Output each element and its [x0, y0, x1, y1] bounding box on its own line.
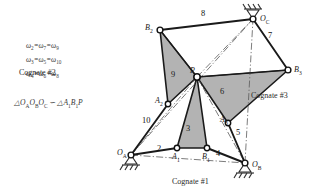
joint-label-B2-sub: 2 — [150, 28, 153, 34]
link-number-8: 8 — [201, 9, 205, 18]
eq1-s1: 2 — [31, 45, 34, 51]
joint-label-OA-sub: A — [123, 153, 127, 159]
eq1-s2: 7 — [44, 45, 47, 51]
cognate-1-label: Cognate #1 — [172, 177, 209, 186]
link-2-bar — [131, 148, 177, 155]
link-number-2: 2 — [157, 144, 161, 153]
eq2-s1: 3 — [31, 60, 34, 66]
similar-symbol: ∽ — [49, 98, 55, 107]
joint-label-P: P — [190, 66, 195, 75]
joint-label-A1-sub: 1 — [177, 157, 180, 163]
link-number-6: 6 — [220, 87, 224, 96]
sim-O3-sub: C — [44, 103, 48, 109]
joint-pin-A1 — [174, 145, 179, 150]
joint-label-A2: A2 — [155, 96, 163, 107]
joint-label-B2: B2 — [145, 23, 153, 34]
link-number-10: 10 — [142, 116, 150, 125]
joint-label-P-base: P — [190, 66, 195, 75]
link-number-4: 4 — [216, 149, 220, 158]
eq2-s2: 5 — [44, 60, 47, 66]
joint-label-OA: OA — [117, 148, 127, 159]
link-number-5: 5 — [236, 128, 240, 137]
joint-label-A1: A1 — [172, 152, 180, 163]
eq2-s3: 10 — [56, 60, 61, 66]
link-7-bar — [253, 19, 288, 70]
joint-pin-B3 — [285, 67, 291, 73]
link-10-bar — [131, 104, 168, 155]
link-8-bar — [160, 19, 253, 30]
triangle-similarity-statement: △OAOBOC ∽ △A1B1P — [14, 98, 83, 109]
joint-label-A2-sub: 2 — [160, 101, 163, 107]
eq3-s3: 8 — [56, 74, 59, 80]
centerline-P-OC — [197, 19, 253, 77]
equation-row-2: ω3=ω5=ω10 — [26, 57, 106, 66]
link-number-3: 3 — [186, 124, 190, 133]
joint-pin-B1 — [204, 145, 209, 150]
joint-label-B3-sub: 3 — [299, 70, 302, 76]
joint-label-A3: A3 — [220, 115, 228, 126]
joint-label-OC-sub: C — [266, 19, 270, 25]
joint-label-B1-sub: 1 — [207, 157, 210, 163]
sim-P: P — [78, 98, 83, 107]
joint-label-B3: B3 — [294, 65, 302, 76]
joint-label-A3-sub: 3 — [225, 120, 228, 126]
joint-pin-OC — [250, 16, 256, 22]
link-number-7: 7 — [268, 31, 272, 40]
joint-label-OC: OC — [260, 14, 270, 25]
equation-row-1: ω2=ω7=ω9 — [26, 43, 106, 52]
figure-canvas: ω2=ω7=ω9 ω3=ω5=ω10 ω4=ω6=ω8 △OAOBOC ∽ △A… — [0, 0, 315, 188]
joint-pin-B2 — [157, 27, 163, 33]
joint-label-OB: OB — [252, 160, 262, 171]
joint-pin-A2 — [165, 101, 170, 106]
cognate-3-label: Cognate #3 — [251, 91, 288, 100]
joint-label-B1: B1 — [202, 152, 210, 163]
joint-pin-OB — [242, 160, 248, 166]
eq1-s3: 9 — [56, 45, 59, 51]
joint-label-OB-sub: B — [258, 165, 262, 171]
cognate-2-label: Cognate #2 — [19, 68, 56, 77]
joint-pin-OA — [128, 152, 134, 158]
link-number-9: 9 — [171, 70, 175, 79]
angular-velocity-equations: ω2=ω7=ω9 ω3=ω5=ω10 ω4=ω6=ω8 — [26, 43, 106, 85]
